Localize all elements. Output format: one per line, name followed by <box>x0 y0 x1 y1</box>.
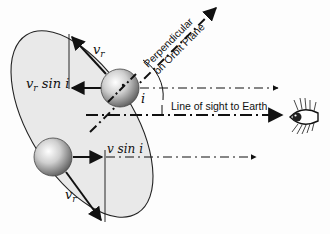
eye-icon <box>290 98 318 134</box>
label-perpendicular: Perpendicular on Orbit Plane <box>141 12 207 78</box>
label-vr-sin-i: vr sin i <box>26 76 69 93</box>
upper-star <box>101 69 139 107</box>
diagram-canvas: vr vr sin i v sin i vr i Perpendicular o… <box>0 0 330 234</box>
label-angle-i: i <box>141 91 145 106</box>
orbit-ellipse <box>0 7 182 234</box>
orbit-inclination-diagram: vr vr sin i v sin i vr i Perpendicular o… <box>0 0 330 234</box>
label-line-of-sight: Line of sight to Earth <box>171 100 267 112</box>
label-vr-top: vr <box>93 42 105 59</box>
label-v-sin-i: v sin i <box>107 142 143 156</box>
lower-star <box>34 138 72 176</box>
